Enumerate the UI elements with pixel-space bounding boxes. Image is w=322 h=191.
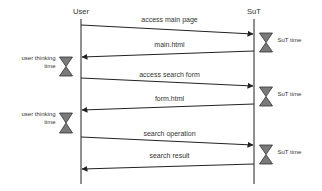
msg-main-html: main.html: [82, 41, 254, 57]
message-arrow: [82, 104, 254, 110]
msg-search-result: search result: [82, 152, 254, 169]
delay-label: SuT time: [278, 37, 303, 43]
msg-form-html: form.html: [82, 95, 254, 110]
hourglass-icon: [60, 113, 73, 133]
actor-user: User: [73, 7, 89, 184]
message-label: search result: [149, 152, 189, 159]
message-label: search operation: [143, 130, 195, 138]
delay-label: time: [44, 63, 56, 69]
sut-time-1: SuT time: [260, 33, 303, 52]
user-thinking-1: user thinkingtime: [21, 55, 72, 76]
user-thinking-2: user thinkingtime: [21, 111, 72, 133]
delay-label: user thinking: [21, 55, 55, 61]
message-label: access main page: [141, 16, 198, 24]
message-arrow: [82, 51, 254, 57]
delay-label: time: [44, 119, 56, 125]
messages: access main pagemain.htmlaccess search f…: [81, 16, 254, 169]
sut-time-3: SuT time: [260, 145, 303, 164]
delay-label: user thinking: [21, 111, 55, 117]
delay-label: SuT time: [278, 91, 303, 97]
message-arrow: [82, 164, 254, 169]
sequence-diagram: UserSuT access main pagemain.htmlaccess …: [0, 0, 322, 191]
hourglass-icon: [260, 87, 273, 106]
message-arrow: [81, 25, 253, 34]
msg-access-search-form: access search form: [81, 71, 253, 86]
actor-label-sut: SuT: [247, 7, 261, 16]
message-label: form.html: [155, 95, 185, 102]
message-arrow: [81, 78, 253, 86]
actor-label-user: User: [73, 7, 89, 16]
msg-search-operation: search operation: [81, 130, 253, 145]
hourglass-icon: [260, 145, 273, 164]
sut-time-2: SuT time: [260, 87, 303, 106]
msg-access-main-page: access main page: [81, 16, 253, 34]
message-label: main.html: [154, 41, 185, 48]
message-label: access search form: [139, 71, 200, 78]
message-arrow: [81, 137, 253, 145]
hourglass-icon: [260, 33, 273, 52]
delay-label: SuT time: [278, 149, 303, 155]
hourglass-icon: [60, 57, 73, 76]
